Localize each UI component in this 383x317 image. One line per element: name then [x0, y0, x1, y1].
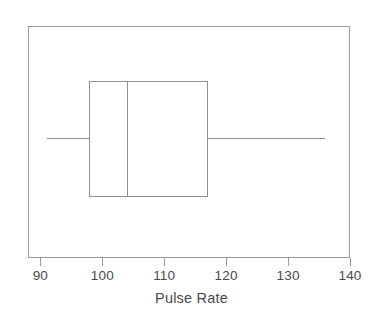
x-axis-tick-label-90: 90 [33, 268, 48, 284]
x-axis-tick-90 [40, 258, 41, 266]
boxplot-graphic [28, 26, 350, 258]
x-axis-tick-label-100: 100 [91, 268, 114, 284]
plot-data-layer [28, 26, 350, 258]
x-axis-tick-labels: 90100110120130140 [0, 268, 383, 288]
x-axis-tick-label-130: 130 [277, 268, 300, 284]
x-axis-tick-100 [102, 258, 103, 266]
x-axis-tick-label-140: 140 [338, 268, 361, 284]
x-axis-tick-label-120: 120 [215, 268, 238, 284]
interquartile-box [90, 81, 208, 196]
x-axis-tick-110 [164, 258, 165, 266]
x-axis-tick-120 [226, 258, 227, 266]
box-plot-figure: 90100110120130140 Pulse Rate [0, 0, 383, 317]
x-axis-tick-label-110: 110 [153, 268, 175, 284]
x-axis-title: Pulse Rate [0, 289, 383, 307]
x-axis-tick-marks [0, 258, 383, 267]
x-axis-tick-140 [350, 258, 351, 266]
x-axis-tick-130 [288, 258, 289, 266]
